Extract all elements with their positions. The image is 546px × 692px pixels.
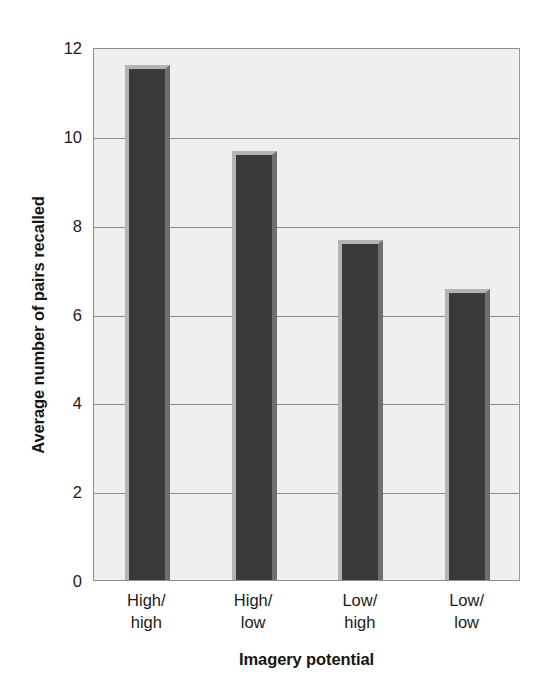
- x-axis-tick-label-line: high: [86, 612, 206, 634]
- x-axis-tick-label-line: High/: [86, 590, 206, 612]
- y-axis-tick-label: 8: [20, 216, 82, 235]
- bar: [125, 65, 170, 580]
- x-axis-tick-label-line: low: [193, 612, 313, 634]
- bar-face: [338, 240, 383, 580]
- bar-face: [125, 65, 170, 580]
- x-axis-tick-label-line: low: [407, 612, 527, 634]
- bar: [232, 151, 277, 580]
- y-axis-tick-label: 12: [20, 39, 82, 58]
- y-axis-tick-label: 0: [20, 572, 82, 591]
- x-axis-tick-label-line: Low/: [300, 590, 420, 612]
- x-axis-tick-label: Low/low: [407, 590, 527, 634]
- x-axis-tick-label: High/high: [86, 590, 206, 634]
- bar-face: [445, 289, 490, 580]
- y-axis-tick-label: 2: [20, 483, 82, 502]
- bar: [338, 240, 383, 580]
- x-axis-tick-label: Low/high: [300, 590, 420, 634]
- y-axis-tick-label: 6: [20, 305, 82, 324]
- bar-face: [232, 151, 277, 580]
- x-axis-tick-label-line: Low/: [407, 590, 527, 612]
- y-axis-tick-label: 10: [20, 127, 82, 146]
- bar: [445, 289, 490, 580]
- y-axis-tick-label: 4: [20, 394, 82, 413]
- x-axis-tick-label: High/low: [193, 590, 313, 634]
- x-axis-title: Imagery potential: [93, 650, 520, 669]
- x-axis-tick-label-line: High/: [193, 590, 313, 612]
- plot-area: [93, 48, 520, 581]
- bar-chart-figure: Average number of pairs recalled 0246810…: [0, 0, 546, 692]
- x-axis-tick-label-line: high: [300, 612, 420, 634]
